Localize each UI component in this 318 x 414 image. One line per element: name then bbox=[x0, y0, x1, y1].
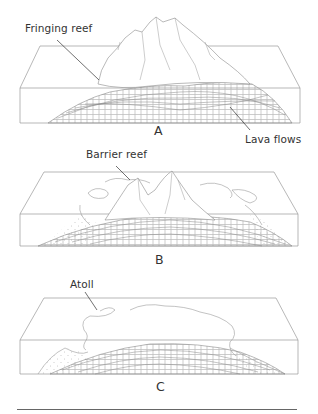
panel-letter-b: B bbox=[155, 252, 164, 267]
panel-letter-a: A bbox=[154, 123, 163, 138]
atoll-leader bbox=[85, 292, 97, 310]
panel-b-barrier-reef bbox=[20, 166, 298, 246]
panel-letter-c: C bbox=[156, 379, 165, 394]
label-atoll: Atoll bbox=[70, 278, 94, 290]
panel-c-atoll bbox=[20, 292, 298, 374]
label-lava-flows: Lava flows bbox=[245, 133, 301, 145]
panel-a-volcano bbox=[98, 17, 250, 88]
bottom-rule bbox=[17, 409, 297, 410]
barrier-reef-leader bbox=[116, 166, 130, 180]
reef-formation-diagram bbox=[0, 0, 318, 414]
label-barrier-reef: Barrier reef bbox=[86, 148, 147, 160]
label-fringing-reef: Fringing reef bbox=[25, 22, 92, 34]
panel-a-lava-flows bbox=[48, 82, 292, 123]
